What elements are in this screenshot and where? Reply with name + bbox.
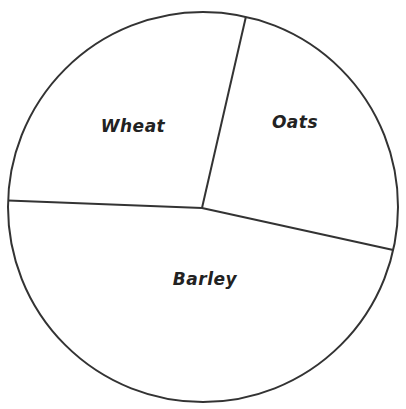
pie-chart: Wheat Oats Barley (0, 0, 406, 409)
slice-label-wheat: Wheat (101, 116, 166, 136)
slice-label-barley: Barley (173, 269, 238, 289)
slice-label-oats: Oats (272, 112, 318, 132)
